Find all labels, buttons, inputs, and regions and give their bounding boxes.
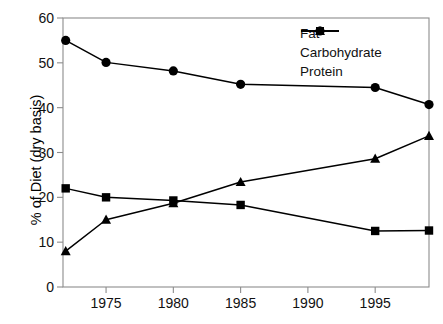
legend-item-protein: Protein	[300, 62, 382, 81]
data-point-fat	[61, 246, 71, 255]
data-point-protein	[236, 80, 245, 89]
data-point-protein	[61, 36, 70, 45]
circle-marker-icon	[300, 24, 340, 38]
data-point-carbohydrate	[236, 201, 244, 209]
series-line-carbohydrate	[66, 188, 429, 231]
data-point-protein	[101, 58, 110, 67]
chart-legend: Fat Carbohydrate Protein	[300, 24, 382, 81]
data-point-protein	[424, 100, 433, 109]
data-point-fat	[424, 131, 434, 140]
data-point-fat	[370, 154, 380, 163]
legend-label: Carbohydrate	[300, 46, 382, 60]
legend-item-carbohydrate: Carbohydrate	[300, 43, 382, 62]
data-point-protein	[169, 66, 178, 75]
legend-label: Protein	[300, 65, 343, 79]
data-point-carbohydrate	[371, 227, 379, 235]
data-point-carbohydrate	[61, 184, 69, 192]
data-point-protein	[371, 83, 380, 92]
data-point-carbohydrate	[169, 196, 177, 204]
data-point-carbohydrate	[425, 226, 433, 234]
chart-container: % of Diet (dry basis) 0 10 20 30 40 50 6…	[0, 0, 443, 324]
data-point-carbohydrate	[102, 193, 110, 201]
